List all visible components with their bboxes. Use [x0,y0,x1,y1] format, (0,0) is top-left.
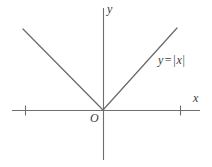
origin-label: O [90,112,99,124]
coordinate-plane-svg [0,0,212,167]
equation-label: y=|x| [158,54,186,66]
x-axis-label: x [193,92,198,104]
y-axis-label: y [107,3,112,15]
absolute-value-curve [23,28,177,110]
equation-lhs: y [158,53,164,67]
absolute-bar-right-icon: | [182,53,186,67]
absolute-value-graph-figure: y x O y=|x| [0,0,212,167]
equation-equals-sign: = [164,53,173,67]
